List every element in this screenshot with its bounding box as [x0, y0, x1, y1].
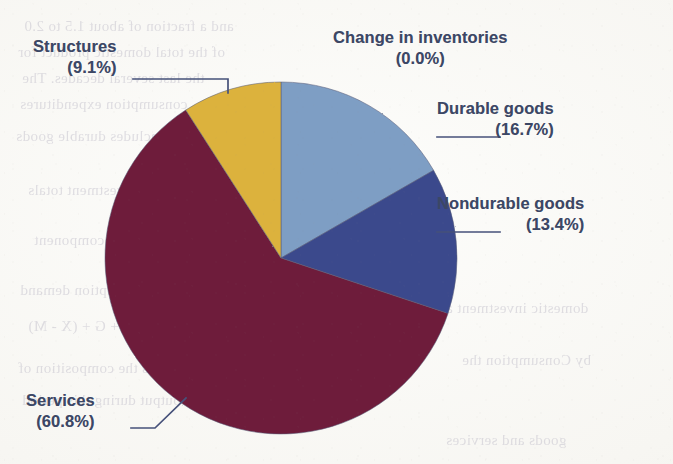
slice-label-name: Change in inventories: [333, 28, 507, 46]
slice-label-name: Services: [26, 391, 95, 409]
slice-label-percent: (60.8%): [26, 411, 95, 432]
scanned-figure-page: and a fraction of about 1.5 to 2.0of the…: [0, 0, 673, 464]
slice-label-name: Nondurable goods: [437, 194, 584, 212]
slice-label-nondurable-goods: Nondurable goods (13.4%): [437, 193, 584, 235]
leader-line-structures: [133, 79, 228, 93]
slice-label-percent: (13.4%): [437, 214, 584, 235]
slice-label-percent: (0.0%): [333, 48, 507, 69]
slice-label-structures: Structures (9.1%): [33, 36, 117, 78]
leader-line-services: [131, 398, 186, 428]
slice-label-change-in-inventories: Change in inventories (0.0%): [333, 27, 507, 69]
slice-label-services: Services (60.8%): [26, 390, 95, 432]
slice-label-percent: (9.1%): [33, 57, 117, 78]
slice-label-durable-goods: Durable goods (16.7%): [437, 98, 554, 140]
slice-label-percent: (16.7%): [437, 119, 554, 140]
slice-label-name: Durable goods: [437, 99, 554, 117]
slice-label-name: Structures: [33, 37, 117, 55]
